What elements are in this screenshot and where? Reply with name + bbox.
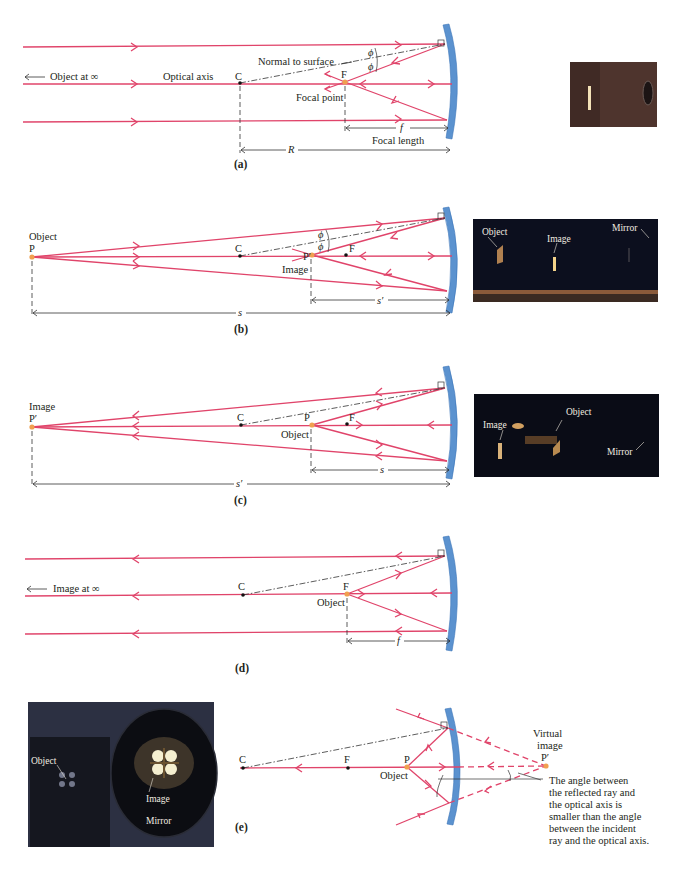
svg-text:C: C — [235, 71, 242, 82]
label-object: Object — [380, 770, 408, 781]
svg-text:f: f — [400, 122, 405, 133]
svg-text:Mirror: Mirror — [607, 447, 633, 457]
svg-text:Image: Image — [547, 234, 571, 244]
svg-text:image: image — [537, 740, 563, 751]
label-focal-length: Focal length — [372, 135, 425, 146]
svg-text:P: P — [404, 754, 410, 765]
caption-b: (b) — [234, 323, 248, 336]
svg-text:F: F — [349, 412, 355, 423]
photo-e: Object Image Mirror — [28, 702, 217, 847]
svg-text:Mirror: Mirror — [146, 816, 172, 826]
svg-text:Object: Object — [566, 407, 592, 417]
label-optical-axis: Optical axis — [163, 71, 213, 82]
focal-point — [342, 79, 347, 84]
photo-a — [570, 62, 657, 127]
label-object: Object — [29, 231, 57, 242]
svg-text:Image at ∞: Image at ∞ — [53, 583, 100, 594]
label-virtual-image: Virtual — [533, 728, 562, 739]
svg-text:P: P — [304, 412, 310, 423]
svg-text:Object at ∞: Object at ∞ — [50, 71, 98, 82]
svg-text:P′: P′ — [541, 752, 549, 763]
svg-text:s: s — [380, 464, 384, 475]
label-object: Object — [317, 597, 345, 608]
svg-text:C: C — [239, 754, 246, 765]
svg-text:s′: s′ — [377, 295, 384, 306]
svg-text:F: F — [349, 243, 355, 254]
svg-text:F: F — [341, 69, 347, 80]
svg-text:F: F — [344, 754, 350, 765]
caption-c: (c) — [234, 494, 247, 507]
label-object: Object — [281, 429, 309, 440]
svg-text:P′: P′ — [29, 413, 37, 424]
optics-figure: Normal to surface ϕ ϕ C F Focal point Ob… — [0, 0, 691, 875]
svg-text:Mirror: Mirror — [612, 223, 638, 233]
svg-text:Object: Object — [482, 227, 508, 237]
label-focal-point: Focal point — [296, 92, 344, 103]
panel-a: Normal to surface ϕ ϕ C F Focal point Ob… — [23, 24, 457, 171]
photo-b: Object Image Mirror — [473, 219, 658, 302]
svg-text:ϕ: ϕ — [368, 47, 374, 58]
svg-text:P′: P′ — [303, 251, 311, 262]
label-normal: Normal to surface — [258, 56, 334, 67]
svg-text:Object: Object — [31, 756, 57, 766]
panel-c: Image P′ C P Object F s s′ (c) — [29, 366, 457, 507]
svg-text:ϕ: ϕ — [368, 61, 374, 72]
svg-text:the reflected ray and: the reflected ray and — [549, 787, 636, 798]
svg-text:s′: s′ — [236, 478, 243, 489]
svg-text:Image: Image — [483, 420, 507, 430]
svg-text:ϕ: ϕ — [318, 241, 324, 252]
svg-text:C: C — [235, 243, 242, 254]
caption-e: (e) — [235, 821, 248, 834]
svg-text:Image: Image — [146, 794, 170, 804]
svg-text:R: R — [287, 144, 295, 155]
photo-c: Image Object Mirror — [474, 394, 659, 477]
caption-a: (a) — [234, 158, 248, 171]
svg-text:F: F — [343, 581, 349, 592]
svg-text:The angle between: The angle between — [549, 775, 629, 786]
concave-mirror — [443, 24, 457, 139]
svg-text:f: f — [397, 635, 402, 646]
label-image: Image — [29, 401, 56, 412]
svg-text:P: P — [29, 243, 35, 254]
caption-d: (d) — [235, 662, 249, 675]
angle-note: The angle between the reflected ray and … — [549, 775, 649, 846]
svg-text:smaller than the angle: smaller than the angle — [549, 811, 642, 822]
panel-b: ϕ ϕ Object P C P′ Image F s′ s (b) — [29, 207, 457, 336]
svg-text:C: C — [237, 412, 244, 423]
svg-text:the optical axis is: the optical axis is — [549, 799, 622, 810]
panel-e: C F P Object P′ Virtual image The angle … — [235, 708, 649, 846]
svg-text:ϕ: ϕ — [318, 229, 324, 240]
label-image: Image — [282, 264, 309, 275]
svg-text:between the incident: between the incident — [549, 823, 636, 834]
svg-text:C: C — [238, 581, 245, 592]
svg-text:ray and the optical axis.: ray and the optical axis. — [549, 835, 649, 846]
panel-d: Image at ∞ C F Object f (d) — [25, 536, 457, 675]
svg-text:s: s — [238, 307, 242, 318]
